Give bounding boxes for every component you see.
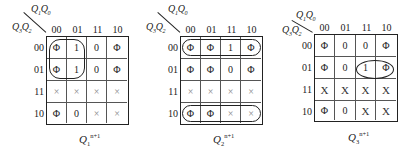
column-variable-label: Q1Q0 xyxy=(31,3,50,16)
cell: Φ xyxy=(241,37,261,59)
cell: 1 xyxy=(67,59,87,81)
cell: × xyxy=(241,103,261,123)
cell: × xyxy=(201,81,221,103)
cell: × xyxy=(47,81,67,103)
row-header: 11 xyxy=(296,84,312,95)
cell: 0 xyxy=(335,57,356,79)
cell: × xyxy=(221,81,241,103)
kmap-q3: Q1Q0 Q3Q2 00 01 11 10 00 01 11 10 Φ 0 0 … xyxy=(268,0,403,154)
column-header: 00 xyxy=(46,24,67,35)
cell: × xyxy=(67,81,87,103)
column-header: 10 xyxy=(241,24,262,35)
cell: X xyxy=(356,101,376,120)
row-header: 01 xyxy=(162,64,178,75)
cell: Φ xyxy=(47,37,67,59)
cell: Φ xyxy=(181,37,201,59)
cell: 0 xyxy=(87,59,107,81)
cell: Φ xyxy=(315,101,335,120)
cell: × xyxy=(107,103,127,123)
row-header: 00 xyxy=(296,40,312,51)
cell: × xyxy=(107,81,127,103)
cell: Φ xyxy=(201,103,221,123)
column-header: 00 xyxy=(314,22,335,33)
column-header: 01 xyxy=(67,24,88,35)
column-variable-label: Q1Q0 xyxy=(296,9,315,22)
column-header: 01 xyxy=(335,22,356,33)
cell: Φ xyxy=(181,103,201,123)
kmap-grid: Φ Φ 1 Φ Φ Φ 0 Φ × × × × Φ Φ × × xyxy=(180,36,263,125)
cell: × xyxy=(181,81,201,103)
column-variable-label: Q1Q0 xyxy=(168,3,187,16)
cell: X xyxy=(315,79,335,101)
row-header: 11 xyxy=(162,86,178,97)
kmap-grid: Φ 1 0 Φ Φ 1 0 Φ × × × × Φ 0 × × xyxy=(46,36,129,125)
row-variable-label: Q3Q2 xyxy=(146,21,165,34)
cell: Φ xyxy=(241,59,261,81)
row-header: 11 xyxy=(28,86,44,97)
cell: X xyxy=(376,79,396,101)
row-header: 01 xyxy=(28,64,44,75)
cell: Φ xyxy=(376,57,396,79)
map-caption: Q1n+1 xyxy=(79,132,100,147)
column-header: 11 xyxy=(356,22,377,33)
cell: Φ xyxy=(181,59,201,81)
cell: Φ xyxy=(315,35,335,57)
cell: Φ xyxy=(107,37,127,59)
cell: × xyxy=(87,103,107,123)
cell: Φ xyxy=(376,35,396,57)
kmap-q1: Q1Q0 Q3Q2 00 01 11 10 00 01 11 10 Φ 1 0 … xyxy=(0,0,135,154)
kmap-grid: Φ 0 0 Φ Φ 0 1 Φ X X X X Φ 0 X X xyxy=(314,34,398,122)
cell: Φ xyxy=(107,59,127,81)
cell: Φ xyxy=(47,103,67,123)
column-header: 01 xyxy=(201,24,222,35)
cell: 0 xyxy=(335,35,356,57)
column-header: 10 xyxy=(107,24,128,35)
row-variable-label: Q3Q2 xyxy=(12,21,31,34)
column-header: 11 xyxy=(87,24,108,35)
cell: × xyxy=(221,103,241,123)
cell: 1 xyxy=(67,37,87,59)
cell: × xyxy=(241,81,261,103)
row-header: 10 xyxy=(162,108,178,119)
cell: Φ xyxy=(201,37,221,59)
cell: 0 xyxy=(356,35,376,57)
cell: 1 xyxy=(356,57,376,79)
row-header: 10 xyxy=(28,108,44,119)
row-variable-label: Q3Q2 xyxy=(282,24,301,37)
cell: 0 xyxy=(87,37,107,59)
cell: 0 xyxy=(67,103,87,123)
cell: Φ xyxy=(201,59,221,81)
cell: X xyxy=(376,101,396,120)
kmap-q2: Q1Q0 Q3Q2 00 01 11 10 00 01 11 10 Φ Φ 1 … xyxy=(134,0,269,154)
column-header: 10 xyxy=(376,22,397,33)
cell: X xyxy=(335,79,356,101)
row-header: 00 xyxy=(162,42,178,53)
cell: Φ xyxy=(47,59,67,81)
map-caption: Q2n+1 xyxy=(213,132,234,147)
cell: 0 xyxy=(335,101,356,120)
cell: Φ xyxy=(315,57,335,79)
cell: X xyxy=(356,79,376,101)
cell: × xyxy=(87,81,107,103)
column-header: 00 xyxy=(180,24,201,35)
row-header: 01 xyxy=(296,62,312,73)
row-header: 00 xyxy=(28,42,44,53)
cell: 1 xyxy=(221,37,241,59)
column-header: 11 xyxy=(221,24,242,35)
cell: 0 xyxy=(221,59,241,81)
row-header: 10 xyxy=(296,106,312,117)
map-caption: Q3n+1 xyxy=(348,130,369,145)
